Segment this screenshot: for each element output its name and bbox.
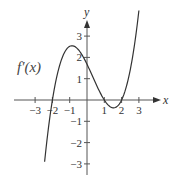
y-axis-arrow-icon (84, 20, 90, 28)
x-tick-label: −2 (47, 104, 59, 116)
x-tick-label: −1 (64, 104, 76, 116)
function-graph: x y −3−2−1123 321−1−2−3 f′(x) (0, 0, 170, 175)
y-tick-label: −2 (70, 137, 82, 149)
y-tick-label: 3 (77, 30, 83, 42)
x-axis-label: x (162, 93, 169, 107)
y-tick-label: −3 (70, 158, 82, 170)
y-axis-label: y (83, 5, 90, 19)
y-tick-label: 1 (77, 73, 83, 85)
curve-f-prime (45, 11, 139, 162)
x-tick-label: −3 (29, 104, 41, 116)
x-tick-label: 1 (102, 104, 108, 116)
x-axis-arrow-icon (153, 97, 161, 103)
x-tick-label: 3 (136, 104, 142, 116)
y-tick-label: −1 (70, 115, 82, 127)
curve-label: f′(x) (17, 59, 41, 76)
x-tick-label: 2 (119, 104, 125, 116)
